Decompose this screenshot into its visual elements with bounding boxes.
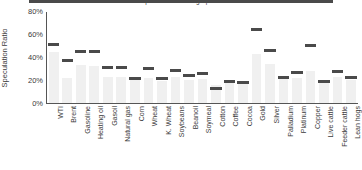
bar-column <box>196 12 210 103</box>
bar-spec-ratio <box>184 80 194 103</box>
bar-spec-ratio <box>89 66 99 103</box>
marker-avg-spec-ratio <box>197 72 208 75</box>
bar-column <box>223 12 237 103</box>
y-axis-tick-label: 80% <box>15 8 43 16</box>
marker-avg-spec-ratio <box>183 74 194 77</box>
x-axis-label-cell: Wheat <box>142 106 156 168</box>
plot-area: 80%60%40%20%0% <box>46 12 358 104</box>
x-axis-label-cell: Cocoa <box>236 106 250 168</box>
bar-column <box>290 12 304 103</box>
bar-column <box>236 12 250 103</box>
marker-avg-spec-ratio <box>89 50 100 53</box>
x-axis-line <box>46 103 358 104</box>
x-axis-label-cell: Natural gas <box>115 106 129 168</box>
marker-avg-spec-ratio <box>251 28 262 31</box>
marker-avg-spec-ratio <box>318 80 329 83</box>
marker-avg-spec-ratio <box>116 66 127 69</box>
bar-spec-ratio <box>198 79 208 103</box>
bar-column <box>101 12 115 103</box>
bar-column <box>250 12 264 103</box>
bar-column <box>344 12 358 103</box>
bar-column <box>88 12 102 103</box>
x-axis-label-cell: Live cattle <box>317 106 331 168</box>
bar-column <box>74 12 88 103</box>
bar-column <box>182 12 196 103</box>
x-axis-label-cell: Lean hogs <box>344 106 358 168</box>
bar-column <box>115 12 129 103</box>
x-axis-label-cell: Soymeal <box>196 106 210 168</box>
chart-legend: Spec. Ratio Avg Spec. Ratio <box>0 0 362 7</box>
x-axis-label-cell: Heating oil <box>88 106 102 168</box>
bar-spec-ratio <box>333 77 343 103</box>
x-axis-label-cell: Coffee <box>223 106 237 168</box>
marker-avg-spec-ratio <box>129 77 140 80</box>
legend-entry-avg-spec-ratio: Avg Spec. Ratio <box>189 0 236 4</box>
bar-column <box>304 12 318 103</box>
x-axis-label-cell: WTI <box>47 106 61 168</box>
bar-spec-ratio <box>130 80 140 103</box>
x-axis-label-cell: Soybeans <box>169 106 183 168</box>
marker-avg-spec-ratio <box>224 80 235 83</box>
bar-spec-ratio <box>279 79 289 103</box>
marker-avg-spec-ratio <box>75 50 86 53</box>
bar-column <box>317 12 331 103</box>
x-axis-label-cell: Platinum <box>290 106 304 168</box>
y-axis-tick-label: 0% <box>15 100 43 108</box>
x-axis-label-cell: K. Wheat <box>155 106 169 168</box>
bar-column <box>277 12 291 103</box>
marker-avg-spec-ratio <box>62 59 73 62</box>
y-axis-tick-label: 20% <box>15 77 43 85</box>
y-axis-tick-label: 40% <box>15 54 43 62</box>
bar-column <box>331 12 345 103</box>
marker-avg-spec-ratio <box>305 44 316 47</box>
bar-spec-ratio <box>171 77 181 103</box>
y-axis-tick-label: 60% <box>15 31 43 39</box>
bar-column <box>169 12 183 103</box>
bar-spec-ratio <box>76 65 86 103</box>
bar-spec-ratio <box>49 52 59 103</box>
marker-avg-spec-ratio <box>210 87 221 90</box>
x-axis-label-cell: Brent <box>61 106 75 168</box>
x-axis-labels: WTIBrentGasolineHeating oilGasoilNatural… <box>47 106 358 168</box>
bar-spec-ratio <box>103 77 113 103</box>
x-axis-label-cell: Copper <box>304 106 318 168</box>
marker-avg-spec-ratio <box>143 67 154 70</box>
marker-avg-spec-ratio <box>278 76 289 79</box>
marker-avg-spec-ratio <box>291 71 302 74</box>
marker-avg-spec-ratio <box>345 76 356 79</box>
bar-spec-ratio <box>306 71 316 103</box>
marker-avg-spec-ratio <box>264 49 275 52</box>
marker-avg-spec-ratio <box>237 81 248 84</box>
marker-avg-spec-ratio <box>48 43 59 46</box>
x-axis-label-cell: Gold <box>250 106 264 168</box>
bar-spec-ratio <box>116 77 126 103</box>
bar-column <box>142 12 156 103</box>
x-axis-label-cell: Palladium <box>277 106 291 168</box>
y-axis-title-text: Speculation Ratio <box>0 11 10 105</box>
bar-spec-ratio <box>157 81 167 103</box>
y-axis-title: Speculation Ratio <box>0 11 10 105</box>
x-axis-tick-label: Lean hogs <box>354 106 361 139</box>
x-axis-label-cell: Cotton <box>209 106 223 168</box>
bar-spec-ratio <box>346 80 356 103</box>
marker-avg-spec-ratio <box>102 66 113 69</box>
bar-spec-ratio <box>62 78 72 103</box>
bar-column <box>128 12 142 103</box>
speculation-ratio-chart: Spec. Ratio Avg Spec. Ratio Speculation … <box>0 0 362 170</box>
bar-column <box>61 12 75 103</box>
bar-series-group <box>47 12 358 103</box>
bar-spec-ratio <box>225 83 235 103</box>
bar-spec-ratio <box>252 54 262 103</box>
x-axis-label-cell: Silver <box>263 106 277 168</box>
legend-swatch-marker <box>29 0 333 3</box>
bar-column <box>263 12 277 103</box>
bar-spec-ratio <box>319 82 329 103</box>
bar-spec-ratio <box>265 64 275 103</box>
marker-avg-spec-ratio <box>332 70 343 73</box>
x-axis-label-cell: Gasoil <box>101 106 115 168</box>
bar-spec-ratio <box>292 78 302 103</box>
marker-avg-spec-ratio <box>170 69 181 72</box>
bar-spec-ratio <box>238 82 248 103</box>
bar-column <box>47 12 61 103</box>
bar-spec-ratio <box>144 78 154 103</box>
